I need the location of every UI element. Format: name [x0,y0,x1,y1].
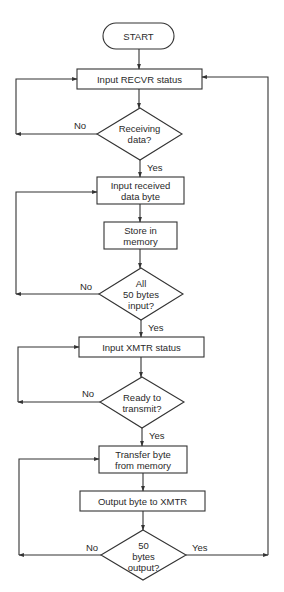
input-xmtr-status-label: Input XMTR status [79,337,204,357]
all-50-input-line1: All [136,278,147,289]
ready-to-transmit-line1: Ready to [123,392,161,403]
edge-label-output-yes: Yes [192,542,208,553]
edge-label-all50-yes: Yes [148,322,164,333]
transfer-byte-label: Transfer byte from memory [99,446,187,473]
input-received-byte-label: Input received data byte [97,177,184,204]
ready-to-transmit-label: Ready to transmit? [100,377,184,428]
output-byte-text: Output byte to XMTR [98,496,187,507]
all-50-input-line3: input? [128,300,154,311]
bytes-50-output-line3: output? [128,562,160,573]
input-received-byte-line1: Input received [111,180,171,191]
edge-label-all50-no: No [80,281,92,292]
input-received-byte-line2: data byte [121,191,160,202]
edge-label-ready-no: No [82,388,94,399]
transfer-byte-line2: from memory [115,460,171,471]
edge-label-receiving-yes: Yes [147,162,163,173]
start-text: START [123,31,153,42]
edge-label-receiving-no: No [74,120,86,131]
bytes-50-output-line2: bytes [132,551,155,562]
receiving-data-label: Receiving data? [97,108,182,160]
input-recvr-status-text: Input RECVR status [97,74,182,85]
edge-label-ready-yes: Yes [149,430,165,441]
input-xmtr-status-text: Input XMTR status [102,342,181,353]
bytes-50-output-label: 50 bytes output? [101,531,186,581]
output-byte-label: Output byte to XMTR [80,491,205,511]
input-recvr-status-label: Input RECVR status [77,69,202,89]
all-50-input-line2: 50 bytes [123,289,159,300]
edge-label-output-no: No [86,542,98,553]
store-in-memory-line1: Store in [124,225,157,236]
receiving-data-line1: Receiving [119,123,161,134]
store-in-memory-label: Store in memory [104,222,177,249]
receiving-data-line2: data? [128,134,152,145]
ready-to-transmit-line2: transmit? [122,403,161,414]
start-label: START [103,23,174,49]
store-in-memory-line2: memory [123,236,157,247]
transfer-byte-line1: Transfer byte [115,449,171,460]
all-50-input-label: All 50 bytes input? [99,268,183,320]
bytes-50-output-line1: 50 [138,540,149,551]
